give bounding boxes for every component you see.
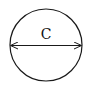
diameter-label: C <box>41 26 52 42</box>
circle-diagram: C <box>0 0 90 86</box>
